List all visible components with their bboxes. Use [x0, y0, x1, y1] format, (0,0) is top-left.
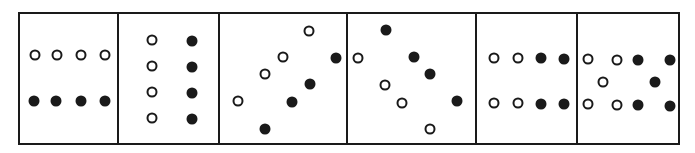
filled-circle-icon [100, 96, 111, 107]
filled-circle-icon [187, 62, 198, 73]
filled-circle-icon [559, 99, 570, 110]
dot-pattern-strip [18, 12, 680, 145]
open-circle-icon [380, 80, 391, 91]
open-circle-icon [147, 61, 158, 72]
filled-circle-icon [187, 114, 198, 125]
open-circle-icon [489, 98, 500, 109]
filled-circle-icon [381, 25, 392, 36]
filled-circle-icon [633, 55, 644, 66]
panel-6 [578, 14, 680, 143]
filled-circle-icon [665, 101, 676, 112]
filled-circle-icon [331, 53, 342, 64]
filled-circle-icon [665, 55, 676, 66]
open-circle-icon [100, 50, 111, 61]
panel-5 [477, 14, 578, 143]
open-circle-icon [260, 69, 271, 80]
open-circle-icon [425, 124, 436, 135]
open-circle-icon [513, 98, 524, 109]
open-circle-icon [233, 96, 244, 107]
open-circle-icon [147, 113, 158, 124]
filled-circle-icon [187, 36, 198, 47]
filled-circle-icon [409, 52, 420, 63]
filled-circle-icon [633, 100, 644, 111]
filled-circle-icon [51, 96, 62, 107]
open-circle-icon [304, 26, 315, 37]
filled-circle-icon [305, 79, 316, 90]
open-circle-icon [397, 98, 408, 109]
open-circle-icon [278, 52, 289, 63]
panel-4 [348, 14, 477, 143]
open-circle-icon [147, 87, 158, 98]
open-circle-icon [30, 50, 41, 61]
open-circle-icon [583, 54, 594, 65]
open-circle-icon [353, 53, 364, 64]
filled-circle-icon [452, 96, 463, 107]
open-circle-icon [489, 53, 500, 64]
filled-circle-icon [260, 124, 271, 135]
open-circle-icon [612, 55, 623, 66]
panel-2 [119, 14, 220, 143]
open-circle-icon [612, 100, 623, 111]
filled-circle-icon [650, 77, 661, 88]
open-circle-icon [513, 53, 524, 64]
open-circle-icon [583, 99, 594, 110]
filled-circle-icon [425, 69, 436, 80]
filled-circle-icon [536, 53, 547, 64]
open-circle-icon [147, 35, 158, 46]
filled-circle-icon [29, 96, 40, 107]
open-circle-icon [76, 50, 87, 61]
filled-circle-icon [559, 54, 570, 65]
filled-circle-icon [187, 88, 198, 99]
filled-circle-icon [536, 99, 547, 110]
open-circle-icon [598, 77, 609, 88]
panel-3 [220, 14, 348, 143]
filled-circle-icon [76, 96, 87, 107]
filled-circle-icon [287, 97, 298, 108]
open-circle-icon [52, 50, 63, 61]
panel-1 [18, 14, 119, 143]
